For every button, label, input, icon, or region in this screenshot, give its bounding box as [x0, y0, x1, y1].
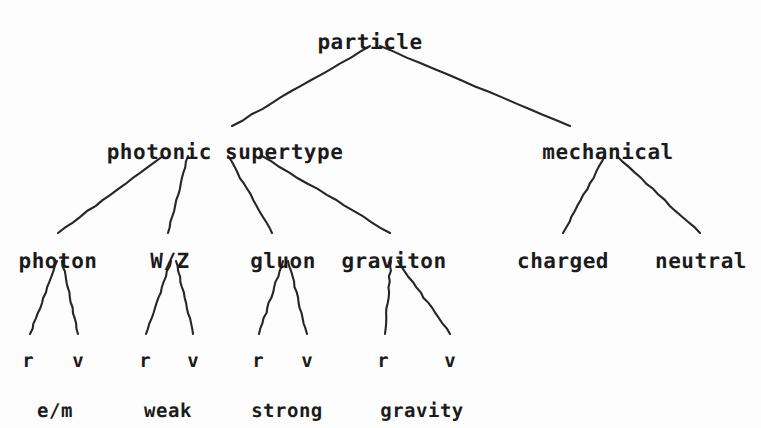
tree-edge: [262, 156, 390, 233]
tree-edge: [563, 156, 605, 233]
tree-node-photon: photon: [19, 249, 98, 273]
leaf-symbol-graviton-v: v: [444, 350, 455, 372]
tree-node-mechanical: mechanical: [542, 140, 673, 164]
caption-gravity: gravity: [380, 400, 464, 422]
caption-weak: weak: [144, 400, 192, 422]
leaf-symbol-photon-v: v: [72, 350, 83, 372]
tree-edge: [617, 156, 700, 233]
tree-node-neutral: neutral: [655, 249, 747, 273]
tree-node-graviton: graviton: [341, 249, 446, 273]
leaf-symbol-gluon-r: r: [252, 350, 263, 372]
tree-node-photonic-supertype: photonic supertype: [107, 140, 344, 164]
caption-em: e/m: [37, 400, 73, 422]
leaf-symbol-wz-r: r: [139, 350, 150, 372]
tree-edge: [380, 46, 570, 126]
tree-edge: [168, 156, 188, 233]
leaf-symbol-wz-v: v: [187, 350, 198, 372]
tree-edge: [58, 156, 163, 233]
tree-node-gluon: gluon: [250, 249, 316, 273]
tree-edge: [228, 156, 272, 233]
leaf-symbol-photon-r: r: [22, 350, 33, 372]
leaf-symbol-gluon-v: v: [301, 350, 312, 372]
tree-edge: [232, 46, 370, 126]
tree-node-charged: charged: [517, 249, 609, 273]
caption-strong: strong: [251, 400, 323, 422]
tree-node-wz: W/Z: [150, 249, 189, 273]
tree-node-particle: particle: [317, 30, 422, 54]
particle-taxonomy-diagram: particle photonic supertype mechanical p…: [0, 0, 761, 428]
leaf-symbol-graviton-r: r: [377, 350, 388, 372]
